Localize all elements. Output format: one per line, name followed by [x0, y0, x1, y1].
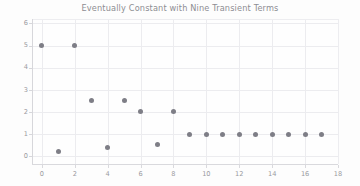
x-axis-tick-label: 14: [262, 171, 282, 178]
plot-area: [32, 19, 338, 164]
gridline-vertical: [173, 19, 174, 164]
x-axis-tick-mark: [305, 165, 306, 168]
y-axis-tick-label: 4: [4, 64, 28, 71]
x-axis-tick-mark: [108, 165, 109, 168]
y-axis-tick-label: 5: [4, 42, 28, 49]
x-axis-tick-label: 18: [328, 171, 348, 178]
gridline-horizontal: [32, 112, 338, 113]
gridline-horizontal: [32, 90, 338, 91]
data-point: [155, 142, 160, 147]
y-axis-tick-mark: [29, 156, 32, 157]
data-point: [286, 132, 291, 137]
y-axis-tick-label: 3: [4, 87, 28, 94]
gridline-horizontal: [32, 134, 338, 135]
gridline-vertical: [206, 19, 207, 164]
y-axis-tick-mark: [29, 23, 32, 24]
y-axis-tick-mark: [29, 90, 32, 91]
y-axis-tick-label: 0: [4, 153, 28, 160]
gridline-horizontal: [32, 23, 338, 24]
x-axis-tick-label: 2: [65, 171, 85, 178]
x-axis-spine: [32, 164, 338, 165]
gridline-vertical: [75, 19, 76, 164]
x-axis-tick-mark: [173, 165, 174, 168]
chart-title: Eventually Constant with Nine Transient …: [0, 3, 360, 13]
y-axis-tick-mark: [29, 68, 32, 69]
x-axis-tick-mark: [338, 165, 339, 168]
x-axis-tick-mark: [239, 165, 240, 168]
x-axis-tick-label: 10: [196, 171, 216, 178]
y-axis-tick-label: 2: [4, 109, 28, 116]
x-axis-tick-mark: [75, 165, 76, 168]
y-axis-tick-mark: [29, 46, 32, 47]
gridline-vertical: [108, 19, 109, 164]
x-axis-tick-mark: [141, 165, 142, 168]
y-axis-tick-label: 6: [4, 20, 28, 27]
y-axis-tick-mark: [29, 134, 32, 135]
data-point: [253, 132, 258, 137]
x-axis-tick-label: 16: [295, 171, 315, 178]
gridline-horizontal: [32, 156, 338, 157]
gridline-vertical: [305, 19, 306, 164]
gridline-horizontal: [32, 68, 338, 69]
plot-right-spine: [338, 19, 339, 164]
x-axis-tick-label: 8: [163, 171, 183, 178]
x-axis-tick-label: 4: [98, 171, 118, 178]
plot-top-spine: [32, 19, 338, 20]
y-axis-tick-labels: 0123456: [0, 0, 28, 186]
data-point: [204, 132, 209, 137]
data-point: [220, 132, 225, 137]
y-axis-spine: [32, 19, 33, 164]
data-point: [270, 132, 275, 137]
x-axis-tick-label: 0: [32, 171, 52, 178]
x-axis-tick-label: 6: [131, 171, 151, 178]
gridline-vertical: [239, 19, 240, 164]
x-axis-tick-mark: [272, 165, 273, 168]
gridline-vertical: [42, 19, 43, 164]
data-point: [319, 132, 324, 137]
x-axis-tick-mark: [42, 165, 43, 168]
x-axis-tick-label: 12: [229, 171, 249, 178]
y-axis-tick-label: 1: [4, 131, 28, 138]
gridline-vertical: [272, 19, 273, 164]
y-axis-tick-mark: [29, 112, 32, 113]
gridline-horizontal: [32, 46, 338, 47]
data-point: [303, 132, 308, 137]
x-axis-tick-mark: [206, 165, 207, 168]
data-point: [237, 132, 242, 137]
x-axis-tick-labels: 024681012141618: [32, 171, 352, 183]
gridline-vertical: [141, 19, 142, 164]
chart-figure: Eventually Constant with Nine Transient …: [0, 0, 360, 186]
